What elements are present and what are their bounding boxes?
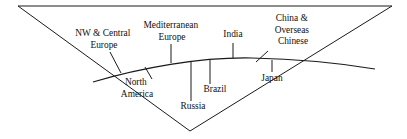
label-line: Chinese <box>278 36 308 46</box>
label-line: Japan <box>261 73 283 83</box>
label-line: NW & Central <box>75 28 130 38</box>
label-line: North <box>125 77 147 87</box>
label-line: America <box>121 89 154 99</box>
label-russia: Russia <box>180 101 206 111</box>
diagram-labels: NW & Central Europe Mediterranean Europe… <box>75 13 311 111</box>
triangle-frame <box>18 6 392 131</box>
label-line: China & <box>276 13 309 23</box>
diagram-canvas: NW & Central Europe Mediterranean Europe… <box>0 0 407 139</box>
label-nw-central-europe: NW & Central Europe <box>75 28 132 50</box>
label-china-overseas-chinese: China & Overseas Chinese <box>275 13 312 46</box>
leader-china-overseas-chinese <box>256 51 268 62</box>
label-line: Europe <box>90 40 117 50</box>
label-india: India <box>223 29 243 39</box>
label-north-america: North America <box>121 77 154 99</box>
label-line: India <box>223 29 243 39</box>
label-line: Mediterranean <box>143 20 198 30</box>
label-japan: Japan <box>261 73 283 83</box>
leader-nw-central-europe <box>110 52 121 73</box>
label-line: Overseas <box>275 25 310 35</box>
label-line: Russia <box>180 101 206 111</box>
label-mediterranean-europe: Mediterranean Europe <box>143 20 200 42</box>
label-line: Brazil <box>204 84 227 94</box>
label-brazil: Brazil <box>204 84 227 94</box>
diagram-container: NW & Central Europe Mediterranean Europe… <box>0 0 407 139</box>
label-line: Europe <box>158 32 185 42</box>
